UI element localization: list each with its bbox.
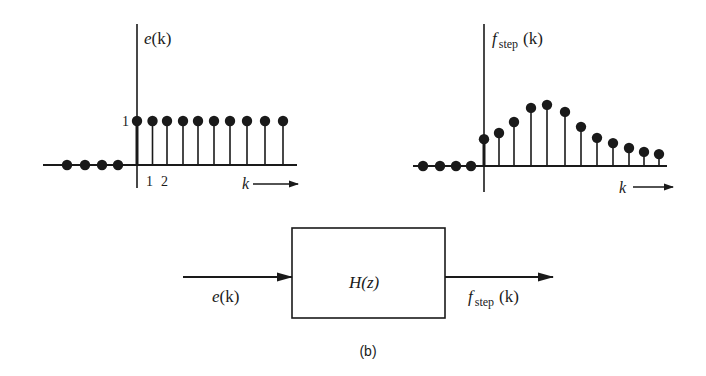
stem-dot xyxy=(435,161,445,171)
stem-dot xyxy=(97,160,107,170)
stem-dot xyxy=(624,143,634,153)
x-tick-1: 1 xyxy=(146,174,153,189)
input-step-plot: 1 1 2 e(k) k xyxy=(43,24,298,192)
stem-dot xyxy=(509,117,519,127)
plot-ylabel: fstep(k) xyxy=(492,29,543,51)
stem-series xyxy=(62,116,288,170)
stem-dot xyxy=(494,128,504,138)
stem-dot xyxy=(466,161,476,171)
stem-dot xyxy=(178,116,188,126)
stem-dot xyxy=(278,116,288,126)
stem-dot xyxy=(209,116,219,126)
stem-dot xyxy=(113,160,123,170)
stem-dot xyxy=(162,116,172,126)
output-step-response-plot: fstep(k) k xyxy=(413,24,673,196)
stem-dot xyxy=(479,134,489,144)
stem-dot xyxy=(654,149,664,159)
stem-dot xyxy=(193,116,203,126)
stem-series xyxy=(418,100,664,172)
stem-dot xyxy=(62,160,72,170)
stem-dot xyxy=(560,107,570,117)
stem-dot xyxy=(526,103,536,113)
stem-dot xyxy=(592,133,602,143)
stem-dot xyxy=(242,116,252,126)
transfer-function-label: H(z) xyxy=(348,273,380,292)
plot-ylabel: e(k) xyxy=(144,29,171,48)
x-tick-2: 2 xyxy=(161,174,168,189)
stem-dot xyxy=(147,116,157,126)
stem-dot xyxy=(542,100,552,110)
stem-dot xyxy=(418,161,428,171)
stem-dot xyxy=(576,122,586,132)
figure-caption: (b) xyxy=(359,343,376,359)
y-label-one: 1 xyxy=(122,114,129,129)
stem-dot xyxy=(132,116,142,126)
stem-dot xyxy=(451,161,461,171)
x-axis-label: k xyxy=(619,179,627,196)
stem-dot xyxy=(260,116,270,126)
stem-dot xyxy=(608,138,618,148)
stem-dot xyxy=(225,116,235,126)
stem-dot xyxy=(80,160,90,170)
stem-dot xyxy=(639,147,649,157)
x-axis-label: k xyxy=(242,175,250,192)
output-signal-label: fstep(k) xyxy=(468,287,519,309)
input-signal-label: e(k) xyxy=(212,287,239,306)
figure: 1 1 2 e(k) k fstep(k) k H(z) e(k) fstep(… xyxy=(0,0,706,376)
block-diagram: H(z) e(k) fstep(k) xyxy=(183,228,553,318)
